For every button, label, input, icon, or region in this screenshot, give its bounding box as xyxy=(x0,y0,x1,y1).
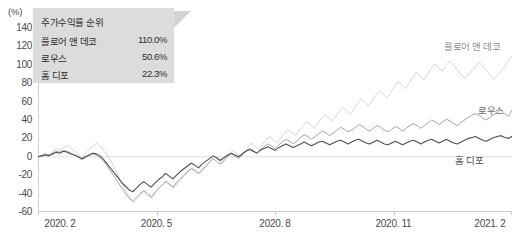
stock-return-line-chart: (%) 140120100806040200-20-40-60 2020. 22… xyxy=(0,0,517,239)
series-label-lowes: 로우스 xyxy=(478,103,504,117)
y-axis-tick-label: -20 xyxy=(4,170,32,180)
y-axis-unit-label: (%) xyxy=(8,6,22,17)
legend-callout-tail xyxy=(174,11,191,28)
y-axis-tick-label: 80 xyxy=(4,78,32,88)
series-label-home-depot: 홈 디포 xyxy=(455,153,483,167)
y-axis-tick-label: 100 xyxy=(4,60,32,70)
x-axis-tick-mark xyxy=(38,211,39,215)
x-axis-tick-label: 2020. 5 xyxy=(141,218,172,229)
legend-row-value: 50.6% xyxy=(142,51,167,62)
y-axis-tick-label: 20 xyxy=(4,133,32,143)
legend-row-value: 110.0% xyxy=(138,34,167,45)
legend-row-value: 22.3% xyxy=(142,68,167,79)
legend-row-name: 로우스 xyxy=(41,51,67,65)
series-line xyxy=(38,136,512,192)
x-axis-tick-label: 2020. 8 xyxy=(259,218,290,229)
x-axis-tick-label: 2020. 11 xyxy=(376,218,412,229)
series-line xyxy=(38,110,512,201)
x-axis-tick-mark xyxy=(511,211,512,215)
x-axis-tick-mark xyxy=(157,211,158,215)
y-axis-tick-label: 140 xyxy=(4,23,32,33)
y-axis-tick-label: -60 xyxy=(4,207,32,217)
y-axis-tick-label: 120 xyxy=(4,41,32,51)
x-axis-tick-label: 2020. 2 xyxy=(44,218,75,229)
y-axis-tick-label: 60 xyxy=(4,97,32,107)
legend-row: 로우스 50.6% xyxy=(41,51,167,64)
legend-row: 플로어 앤 데코 110.0% xyxy=(41,34,167,47)
legend-row-name: 플로어 앤 데코 xyxy=(41,34,97,48)
series-label-floor-and-decor: 플로어 앤 데코 xyxy=(444,39,501,53)
x-axis-tick-label: 2021. 2 xyxy=(474,218,505,229)
y-axis-tick-label: -40 xyxy=(4,189,32,199)
x-axis-tick-mark xyxy=(394,211,395,215)
y-axis-tick-label: 0 xyxy=(4,152,32,162)
legend-title: 주가수익률 순위 xyxy=(41,15,103,29)
legend-row: 홈 디포 22.3% xyxy=(41,68,167,81)
y-axis-tick-label: 40 xyxy=(4,115,32,125)
legend-row-name: 홈 디포 xyxy=(41,68,69,82)
legend-callout: 주가수익률 순위 플로어 앤 데코 110.0% 로우스 50.6% 홈 디포 … xyxy=(33,8,174,83)
x-axis-tick-mark xyxy=(275,211,276,215)
